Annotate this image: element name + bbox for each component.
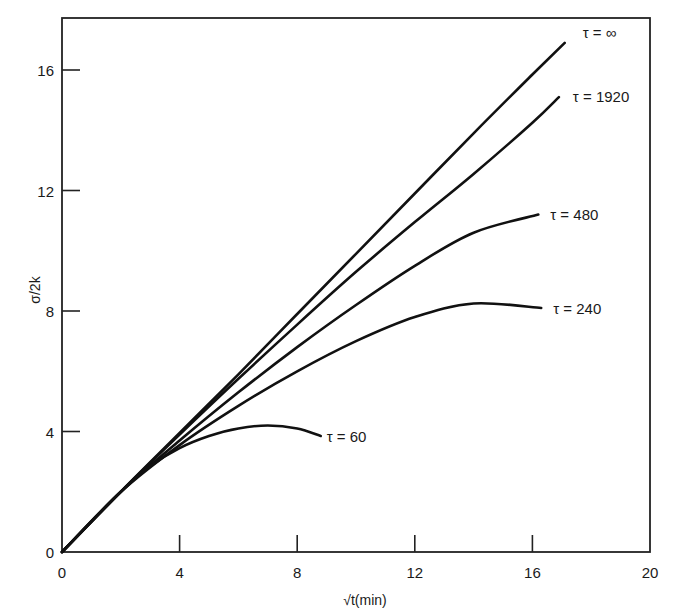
x-tick-label: 4 <box>175 564 183 581</box>
curve-label-1: τ = ∞ <box>583 24 617 41</box>
curves <box>62 43 565 552</box>
curve-line-5 <box>62 426 321 553</box>
plot-border <box>62 18 650 552</box>
x-tick-label: 0 <box>58 564 66 581</box>
curve-line-2 <box>62 97 559 552</box>
x-axis-ticks: 048121620 <box>58 535 659 581</box>
y-tick-label: 4 <box>46 424 54 441</box>
curve-labels: τ = ∞τ = 1920τ = 480τ = 240τ = 60 <box>327 24 630 445</box>
y-axis-ticks: 0481216 <box>37 62 80 561</box>
curve-line-4 <box>62 303 541 552</box>
plot-frame <box>62 18 650 552</box>
x-axis-label: √t(min) <box>343 592 386 608</box>
curve-line-3 <box>62 215 538 552</box>
curve-label-3: τ = 480 <box>550 206 598 223</box>
y-axis-label: σ/2k <box>27 275 43 303</box>
x-tick-label: 8 <box>293 564 301 581</box>
y-tick-label: 12 <box>37 183 54 200</box>
curve-label-2: τ = 1920 <box>573 88 629 105</box>
x-tick-label: 12 <box>406 564 423 581</box>
chart: 048121620 0481216 τ = ∞τ = 1920τ = 480τ … <box>0 0 675 614</box>
curve-label-5: τ = 60 <box>327 428 367 445</box>
curve-label-4: τ = 240 <box>553 300 601 317</box>
y-tick-label: 8 <box>46 303 54 320</box>
y-tick-label: 16 <box>37 62 54 79</box>
y-tick-label: 0 <box>46 544 54 561</box>
x-tick-label: 16 <box>524 564 541 581</box>
x-tick-label: 20 <box>642 564 659 581</box>
